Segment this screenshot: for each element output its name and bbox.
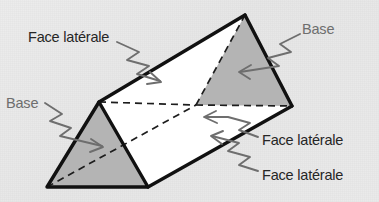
- label-face-laterale-top-left: Face latérale: [28, 30, 109, 45]
- label-base-left: Base: [6, 96, 38, 111]
- label-face-laterale-right-middle: Face latérale: [262, 133, 343, 148]
- label-face-laterale-right-bottom: Face latérale: [262, 168, 343, 183]
- label-base-top-right: Base: [302, 22, 334, 37]
- prism-figure: Face latérale Base Base Face latérale Fa…: [0, 0, 379, 202]
